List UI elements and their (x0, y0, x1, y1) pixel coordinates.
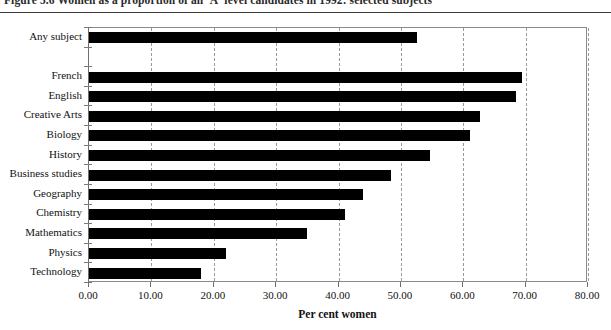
bar-mathematics (89, 228, 307, 239)
y-axis-label-french: French (0, 70, 82, 81)
x-axis-tick-70.00 (525, 282, 526, 287)
bar-creative-arts (89, 111, 480, 122)
y-axis-tick (84, 47, 92, 48)
y-axis-label-any-subject: Any subject (0, 31, 82, 42)
y-axis-label-mathematics: Mathematics (0, 227, 82, 238)
x-axis-label-80.00: 80.00 (565, 289, 609, 301)
y-axis-label-chemistry: Chemistry (0, 207, 82, 218)
y-axis-label-technology: Technology (0, 266, 82, 277)
x-axis-title: Per cent women (88, 308, 587, 320)
x-axis-label-0.00: 0.00 (66, 289, 110, 301)
x-axis-label-10.00: 10.00 (128, 289, 172, 301)
x-axis-tick-0.00 (88, 282, 89, 287)
y-axis-tick (84, 105, 92, 106)
y-axis-tick (84, 86, 92, 87)
y-axis-tick (84, 27, 92, 28)
bar-english (89, 91, 516, 102)
y-axis-tick (84, 164, 92, 165)
x-axis-tick-60.00 (462, 282, 463, 287)
gridline-70.00 (526, 28, 527, 281)
y-axis-tick (84, 262, 92, 263)
chart-plot-area (88, 27, 587, 282)
bar-chemistry (89, 209, 345, 220)
x-axis-label-30.00: 30.00 (253, 289, 297, 301)
x-axis-label-60.00: 60.00 (440, 289, 484, 301)
page-title: Figure 5.6 Women as a proportion of all … (4, 0, 604, 6)
y-axis-tick (84, 66, 92, 67)
bar-french (89, 72, 522, 83)
bar-physics (89, 248, 226, 259)
y-axis-label-biology: Biology (0, 129, 82, 140)
x-axis-tick-80.00 (587, 282, 588, 287)
y-axis-tick (84, 204, 92, 205)
x-axis-tick-30.00 (275, 282, 276, 287)
y-axis-tick (84, 125, 92, 126)
y-axis-tick (84, 223, 92, 224)
chart-x-axis: Per cent women 0.0010.0020.0030.0040.005… (0, 282, 611, 330)
x-axis-label-70.00: 70.00 (503, 289, 547, 301)
x-axis-tick-20.00 (213, 282, 214, 287)
bar-business-studies (89, 170, 391, 181)
y-axis-label-physics: Physics (0, 247, 82, 258)
y-axis-tick (84, 243, 92, 244)
x-axis-tick-50.00 (400, 282, 401, 287)
bar-geography (89, 189, 363, 200)
x-axis-tick-40.00 (338, 282, 339, 287)
y-axis-label-english: English (0, 90, 82, 101)
y-axis-label-history: History (0, 149, 82, 160)
y-axis-label-creative-arts: Creative Arts (0, 109, 82, 120)
x-axis-label-40.00: 40.00 (316, 289, 360, 301)
x-axis-label-20.00: 20.00 (191, 289, 235, 301)
title-divider (0, 12, 611, 13)
bar-technology (89, 268, 201, 279)
x-axis-label-50.00: 50.00 (378, 289, 422, 301)
y-axis-label-business-studies: Business studies (0, 168, 82, 179)
bar-any-subject (89, 32, 417, 43)
x-axis-tick-10.00 (150, 282, 151, 287)
chart-y-axis: Any subjectFrenchEnglishCreative ArtsBio… (0, 27, 85, 282)
y-axis-tick (84, 145, 92, 146)
bar-biology (89, 130, 470, 141)
y-axis-label-geography: Geography (0, 188, 82, 199)
gridline-80.00 (588, 28, 589, 281)
gridline-60.00 (463, 28, 464, 281)
y-axis-tick (84, 184, 92, 185)
bar-history (89, 150, 430, 161)
